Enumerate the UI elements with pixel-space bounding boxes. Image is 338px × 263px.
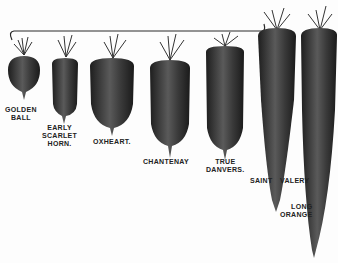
carrot-long-orange xyxy=(301,28,337,258)
label-text: SAINT xyxy=(250,177,273,185)
label-text: TRUE xyxy=(206,158,245,166)
label-golden-ball: GOLDENBALL xyxy=(5,106,37,122)
carrot-golden-ball xyxy=(8,56,40,100)
label-early-scarlet-horn: EARLYSCARLETHORN. xyxy=(42,124,77,148)
carrot-true-danvers xyxy=(206,46,244,160)
label-text: DANVERS. xyxy=(206,166,245,174)
label-text: BALL xyxy=(5,114,37,122)
label-text: HORN. xyxy=(42,140,77,148)
label-chantenay: CHANTENAY xyxy=(143,158,189,166)
label-oxheart: OXHEART. xyxy=(93,138,131,146)
label-text: OXHEART. xyxy=(93,138,131,146)
label-long-orange: LONGORANGE xyxy=(280,203,313,219)
label-text: EARLY xyxy=(42,124,77,132)
label-text: CHANTENAY xyxy=(143,158,189,166)
label-saint: SAINT xyxy=(250,177,273,185)
bracket-line xyxy=(10,24,264,40)
carrot-chantenay xyxy=(150,60,190,158)
label-text: LONG xyxy=(280,203,313,211)
label-text: VALERY xyxy=(280,177,309,185)
label-true-danvers: TRUEDANVERS. xyxy=(206,158,245,174)
label-text: GOLDEN xyxy=(5,106,37,114)
label-text: ORANGE xyxy=(280,211,313,219)
carrot-illustration: GOLDENBALL EARLYSCARLETHORN. OXHEART. CH… xyxy=(0,0,338,263)
carrot-early-scarlet-horn xyxy=(52,58,78,124)
label-valery: VALERY xyxy=(280,177,309,185)
carrot-oxheart xyxy=(90,58,134,136)
label-text: SCARLET xyxy=(42,132,77,140)
